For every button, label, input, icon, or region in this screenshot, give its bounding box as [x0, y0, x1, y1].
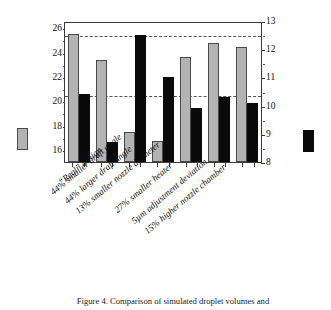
bar-droplet-velocity: [247, 103, 258, 162]
plot-area: [64, 22, 262, 163]
bar-droplet-velocity: [219, 97, 230, 162]
bar-droplet-volume: [180, 57, 191, 162]
bar-droplet-volume: [208, 43, 219, 162]
legend-swatch-volume: [17, 128, 28, 150]
bar-droplet-velocity: [191, 108, 202, 162]
bar-droplet-velocity: [163, 77, 174, 162]
bar-droplet-volume: [236, 47, 247, 162]
axis-tick-label: 13: [266, 17, 276, 27]
bar-droplet-velocity: [135, 35, 146, 162]
axis-tick-label: 9: [266, 130, 271, 140]
axis-tick-label: 22: [53, 73, 63, 83]
axis-tick-label: 10: [266, 102, 276, 112]
axis-tick-label: 24: [53, 49, 63, 59]
category-labels: “Real” design44% smaller draft angle44% …: [0, 166, 331, 284]
axis-tick-label: 18: [53, 122, 63, 132]
axis-tick-label: 26: [53, 24, 63, 34]
bar-group: [208, 23, 230, 162]
axis-minor-tick: [263, 149, 265, 150]
figure-caption: Figure 4. Comparison of simulated drople…: [38, 296, 308, 308]
axis-tick-label: 11: [266, 73, 275, 83]
axis-minor-tick: [263, 64, 265, 65]
axis-tick-label: 20: [53, 97, 63, 107]
legend-swatch-velocity: [303, 130, 314, 152]
left-y-axis: Droplet Volume [pl] 161820222426: [46, 22, 62, 163]
axis-tick-label: 12: [266, 45, 276, 55]
axis-tick-label: 16: [53, 146, 63, 156]
bar-groups: [65, 23, 261, 162]
right-y-axis: Droplet Velocity [m/s] 8910111213: [266, 22, 284, 163]
axis-minor-tick: [263, 121, 265, 122]
bar-group: [236, 23, 258, 162]
axis-minor-tick: [263, 93, 265, 94]
bar-droplet-volume: [68, 34, 79, 162]
axis-minor-tick: [263, 36, 265, 37]
bar-group: [68, 23, 90, 162]
bar-group: [124, 23, 146, 162]
figure-droplet-comparison: Droplet Volume [pl] 161820222426 Droplet…: [0, 0, 331, 310]
bar-group: [180, 23, 202, 162]
